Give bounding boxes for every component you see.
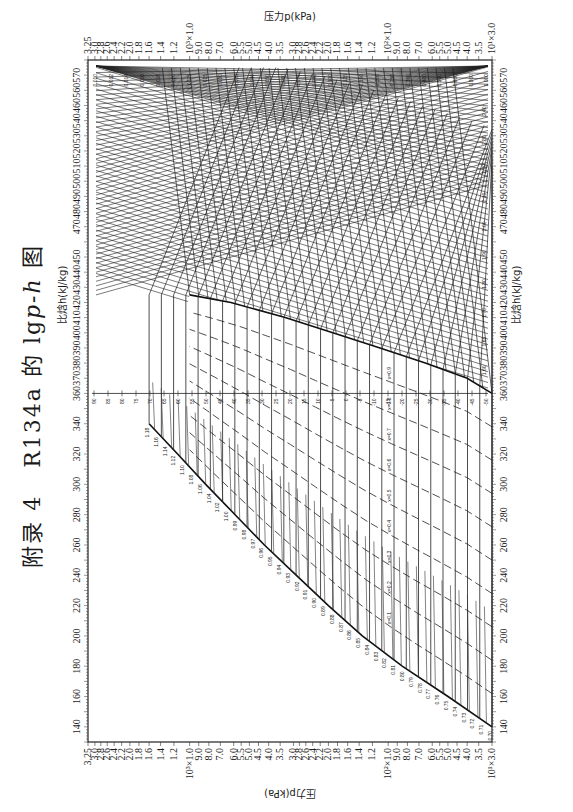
x-tick-label-bottom: 320 bbox=[498, 447, 509, 462]
liquid-entropy-label: 0.71 bbox=[478, 725, 484, 735]
x-tick-label-bottom: 530 bbox=[498, 128, 509, 143]
x-tick-label-bottom: 220 bbox=[498, 598, 509, 613]
x-tick-label-top: 420 bbox=[71, 295, 82, 310]
x-tick-label-top: 430 bbox=[71, 280, 82, 295]
x-tick-label-top: 520 bbox=[71, 143, 82, 158]
y-tick-label-right: 10¹×3.0 bbox=[486, 23, 497, 54]
liquid-entropy-label: 0.83 bbox=[373, 651, 379, 661]
specific-volume-label: 0.025 bbox=[202, 74, 208, 87]
temperature-tick-label: 90 bbox=[91, 398, 97, 404]
x-tick-label-bottom: 340 bbox=[498, 416, 509, 431]
specific-volume-label: 0.125 bbox=[342, 74, 348, 87]
temperature-tick-label: 75 bbox=[133, 398, 139, 404]
x-tick-label-bottom: 260 bbox=[498, 537, 509, 552]
x-tick-label-bottom: 400 bbox=[498, 325, 509, 340]
liquid-entropy-label: 0.81 bbox=[390, 665, 396, 675]
liquid-entropy-label: 0.82 bbox=[381, 658, 387, 668]
y-tick-label-right: 8.0 bbox=[401, 42, 412, 55]
y-tick-label-left: 1.2 bbox=[366, 748, 377, 761]
y-tick-label-left: 3.5 bbox=[274, 748, 285, 761]
y-tick-label-left: 7.0 bbox=[214, 748, 225, 761]
x-tick-label-bottom: 490 bbox=[498, 189, 509, 204]
x-tick-label-top: 490 bbox=[71, 189, 82, 204]
temperature-tick-label: 55 bbox=[189, 398, 195, 404]
liquid-entropy-label: 1.08 bbox=[188, 475, 194, 485]
x-tick-label-bottom: 390 bbox=[498, 340, 509, 355]
liquid-entropy-label: 0.76 bbox=[434, 695, 440, 705]
x-tick-label-top: 200 bbox=[71, 628, 82, 643]
temperature-tick-label: 50 bbox=[203, 398, 209, 404]
liquid-entropy-label: 0.78 bbox=[417, 683, 423, 693]
x-tick-label-bottom: 280 bbox=[498, 507, 509, 522]
vapor-entropy-label: 2.40 bbox=[481, 106, 487, 116]
x-tick-label-top: 540 bbox=[71, 113, 82, 128]
x-tick-label-bottom: 470 bbox=[498, 219, 509, 234]
x-tick-label-top: 380 bbox=[71, 356, 82, 371]
liquid-entropy-label: 1.06 bbox=[197, 484, 203, 494]
y-tick-label-right: 3.5 bbox=[473, 42, 484, 55]
x-tick-label-top: 300 bbox=[71, 477, 82, 492]
y-tick-label-right: 7.0 bbox=[214, 42, 225, 55]
liquid-entropy-label: 0.73 bbox=[461, 712, 467, 722]
x-tick-label-top: 160 bbox=[71, 689, 82, 704]
temperature-tick-label: 45 bbox=[217, 398, 223, 404]
y-tick-label-right: 1.2 bbox=[168, 42, 179, 55]
specific-volume-label: 0.018 bbox=[155, 74, 161, 87]
liquid-entropy-label: 1.02 bbox=[214, 502, 220, 512]
x-tick-label-top: 370 bbox=[71, 371, 82, 386]
quality-label: x=0.1 bbox=[386, 612, 392, 625]
x-tick-label-top: 280 bbox=[71, 507, 82, 522]
x-tick-label-bottom: 460 bbox=[498, 98, 509, 113]
x-tick-label-bottom: 360 bbox=[498, 386, 509, 401]
temperature-tick-label: 40 bbox=[231, 398, 237, 404]
liquid-entropy-label: 0.98 bbox=[241, 530, 247, 540]
specific-volume-label: 0.100 bbox=[327, 74, 333, 87]
liquid-entropy-label: 0.97 bbox=[250, 539, 256, 549]
x-tick-label-bottom: 500 bbox=[498, 174, 509, 189]
quality-label: x=0.6 bbox=[386, 459, 392, 472]
x-tick-label-bottom: 300 bbox=[498, 477, 509, 492]
temperature-tick-label: 85 bbox=[105, 398, 111, 404]
specific-volume-label: 0.070 bbox=[295, 74, 301, 87]
liquid-entropy-label: 0.74 bbox=[452, 706, 458, 716]
temperature-tick-label: -15 bbox=[385, 398, 391, 405]
vapor-entropy-label: 1.90 bbox=[481, 250, 487, 260]
y-tick-label-right: 1.4 bbox=[353, 42, 364, 55]
x-tick-label-bottom: 380 bbox=[498, 356, 509, 371]
x-tick-label-bottom: 450 bbox=[498, 250, 509, 265]
liquid-entropy-label: 0.94 bbox=[276, 564, 282, 574]
specific-volume-label: 0.016 bbox=[139, 74, 145, 87]
y-tick-label-right: 1.6 bbox=[342, 42, 353, 55]
liquid-entropy-label: 0.87 bbox=[338, 622, 344, 632]
liquid-entropy-label: 1.16 bbox=[153, 437, 159, 447]
vapor-entropy-label: 1.80 bbox=[481, 279, 487, 289]
x-tick-label-bottom: 440 bbox=[498, 265, 509, 280]
specific-volume-label: 0.014 bbox=[123, 74, 129, 87]
y-tick-label-left: 10¹×3.0 bbox=[486, 748, 497, 779]
vapor-entropy-label: 2.10 bbox=[481, 193, 487, 203]
quality-label: x=0.9 bbox=[386, 367, 392, 380]
liquid-entropy-label: 0.90 bbox=[311, 598, 317, 608]
temperature-tick-label: 5 bbox=[329, 398, 335, 401]
y-tick-label-left: 3.5 bbox=[473, 748, 484, 761]
liquid-entropy-label: 0.92 bbox=[294, 581, 300, 591]
x-tick-label-top: 140 bbox=[71, 719, 82, 734]
liquid-entropy-label: 1.10 bbox=[179, 465, 185, 475]
temperature-tick-label: 15 bbox=[301, 398, 307, 404]
chart-page: 附录 4 R134a 的 lgp-h 图 1401401601601801802… bbox=[0, 0, 573, 812]
temperature-tick-label: -30 bbox=[427, 398, 433, 405]
y-tick-label-left: 8.0 bbox=[401, 748, 412, 761]
x-tick-label-top: 570 bbox=[71, 68, 82, 83]
y-tick-label-left: 1.4 bbox=[155, 748, 166, 761]
x-tick-label-bottom: 180 bbox=[498, 659, 509, 674]
x-tick-label-top: 400 bbox=[71, 325, 82, 340]
x-tick-label-top: 390 bbox=[71, 340, 82, 355]
vapor-entropy-label: 1.60 bbox=[481, 365, 487, 375]
specific-volume-label: 0.020 bbox=[170, 74, 176, 87]
x-tick-label-bottom: 510 bbox=[498, 159, 509, 174]
temperature-tick-label: 20 bbox=[287, 398, 293, 404]
liquid-entropy-label: 1.18 bbox=[144, 428, 150, 438]
x-tick-label-top: 510 bbox=[71, 159, 82, 174]
specific-volume-label: 0.035 bbox=[233, 74, 239, 87]
x-tick-label-top: 410 bbox=[71, 310, 82, 325]
